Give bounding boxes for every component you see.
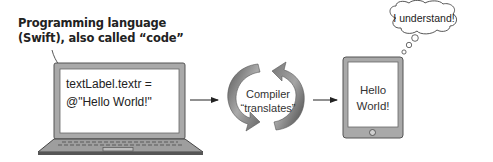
- thought-bubble-text: I understand!: [392, 12, 456, 24]
- callout-line-1: Programming language: [18, 16, 184, 31]
- tablet-screen-text: Hello World!: [343, 82, 403, 114]
- tablet-line-1: Hello: [343, 82, 403, 98]
- laptop-screen-code: textLabel.textr = @"Hello World!": [66, 75, 152, 111]
- compiler-line-1: Compiler: [236, 87, 300, 101]
- compiler-line-2: “translates”: [236, 101, 300, 115]
- code-line-1: textLabel.textr =: [66, 75, 152, 93]
- callout-label: Programming language (Swift), also calle…: [18, 16, 184, 46]
- code-line-2: @"Hello World!": [66, 93, 152, 111]
- thought-bubble: [390, 0, 457, 54]
- tablet-line-2: World!: [343, 98, 403, 114]
- callout-line-2: (Swift), also called “code”: [18, 31, 184, 46]
- compiler-label: Compiler “translates”: [236, 87, 300, 115]
